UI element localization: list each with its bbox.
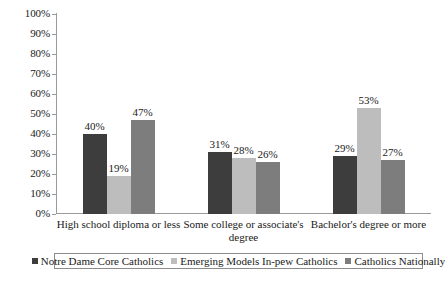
plot-area: 40%19%47%31%28%26%29%53%27% xyxy=(56,14,431,214)
x-axis-category-label: Bachelor's degree or more xyxy=(306,218,431,231)
legend-item[interactable]: Notre Dame Core Catholics xyxy=(32,256,164,267)
y-axis-tick-label: 0% xyxy=(4,208,50,219)
bar[interactable]: 27% xyxy=(381,160,405,214)
bar-value-label: 26% xyxy=(257,149,277,160)
bar-value-label: 19% xyxy=(108,163,128,174)
y-axis-tick xyxy=(52,214,56,215)
bar[interactable]: 29% xyxy=(333,156,357,214)
y-axis-tick-label: 40% xyxy=(4,128,50,139)
x-axis-category-label: Some college or associate's degree xyxy=(181,218,306,243)
bar-group: 31%28%26% xyxy=(208,14,280,214)
y-axis-tick-label: 60% xyxy=(4,88,50,99)
bar[interactable]: 19% xyxy=(107,176,131,214)
y-axis-tick-label: 100% xyxy=(4,8,50,19)
y-axis-tick-label: 10% xyxy=(4,188,50,199)
bar[interactable]: 31% xyxy=(208,152,232,214)
y-axis-tick-label: 90% xyxy=(4,28,50,39)
bar-value-label: 53% xyxy=(358,95,378,106)
y-axis-tick-label: 80% xyxy=(4,48,50,59)
bar-value-label: 28% xyxy=(233,145,253,156)
bar-value-label: 40% xyxy=(84,121,104,132)
legend-label: Emerging Models In-pew Catholics xyxy=(180,256,337,267)
bar[interactable]: 40% xyxy=(83,134,107,214)
legend-swatch-icon xyxy=(32,258,38,264)
bar[interactable]: 47% xyxy=(131,120,155,214)
bar-value-label: 31% xyxy=(209,139,229,150)
legend-swatch-icon xyxy=(345,258,351,264)
bar-value-label: 47% xyxy=(132,107,152,118)
legend-item[interactable]: Catholics Nationally xyxy=(345,256,445,267)
chart-legend: Notre Dame Core CatholicsEmerging Models… xyxy=(54,253,423,269)
y-axis-tick-label: 70% xyxy=(4,68,50,79)
bar-group: 29%53%27% xyxy=(333,14,405,214)
bar[interactable]: 26% xyxy=(256,162,280,214)
bar-value-label: 27% xyxy=(382,147,402,158)
bar-group: 40%19%47% xyxy=(83,14,155,214)
bar[interactable]: 53% xyxy=(357,108,381,214)
legend-label: Catholics Nationally xyxy=(354,256,445,267)
legend-item[interactable]: Emerging Models In-pew Catholics xyxy=(171,256,337,267)
bar[interactable]: 28% xyxy=(232,158,256,214)
legend-swatch-icon xyxy=(171,258,177,264)
legend-label: Notre Dame Core Catholics xyxy=(41,256,164,267)
y-axis-tick-label: 30% xyxy=(4,148,50,159)
y-axis-tick-label: 20% xyxy=(4,168,50,179)
y-axis-tick-label: 50% xyxy=(4,108,50,119)
bar-value-label: 29% xyxy=(334,143,354,154)
x-axis-category-label: High school diploma or less xyxy=(56,218,181,231)
